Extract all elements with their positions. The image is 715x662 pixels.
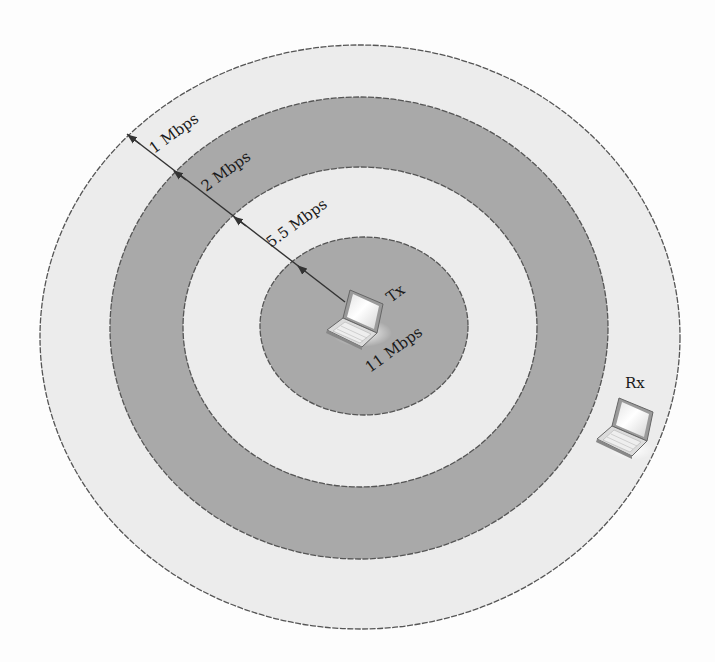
rx-label: Rx [625,374,645,392]
coverage-diagram: 1 Mbps 2 Mbps 5.5 Mbps 11 Mbps Tx [0,0,715,662]
coverage-diagram-svg: 1 Mbps 2 Mbps 5.5 Mbps 11 Mbps Tx [0,0,715,662]
